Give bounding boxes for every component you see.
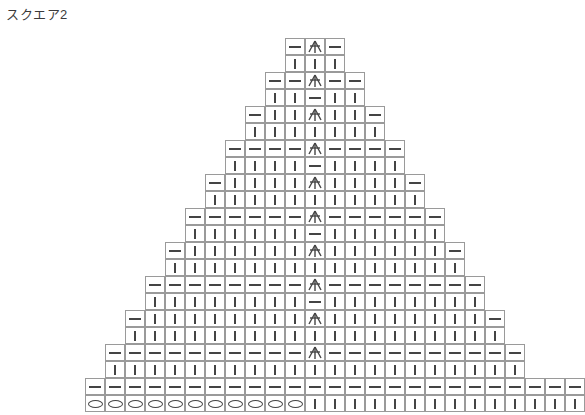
stitch-cell-half-double-crochet-dash — [245, 344, 265, 361]
stitch-cell-single-crochet-bar — [245, 327, 265, 344]
stitch-cell-single-crochet-bar — [465, 361, 485, 378]
stitch-cell-single-crochet-bar — [245, 259, 265, 276]
stitch-cell-single-crochet-bar — [345, 123, 365, 140]
stitch-cell-single-crochet-bar — [425, 361, 445, 378]
stitch-cell-half-double-crochet-dash — [145, 276, 165, 293]
stitch-cell-single-crochet-bar — [345, 293, 365, 310]
stitch-cell-single-crochet-bar — [245, 242, 265, 259]
stitch-cell-single-crochet-bar — [385, 395, 405, 412]
stitch-cell-single-crochet-bar — [385, 361, 405, 378]
stitch-cell-single-crochet-bar — [265, 310, 285, 327]
stitch-cell-single-crochet-bar — [325, 89, 345, 106]
stitch-cell-single-crochet-bar — [165, 361, 185, 378]
stitch-cell-half-double-crochet-dash — [245, 140, 265, 157]
stitch-cell-single-crochet-bar — [385, 174, 405, 191]
stitch-cell-half-double-crochet-dash — [365, 208, 385, 225]
stitch-cell-single-crochet-bar — [385, 242, 405, 259]
stitch-cell-single-crochet-bar — [365, 361, 385, 378]
stitch-cell-single-crochet-bar — [165, 327, 185, 344]
stitch-cell-half-double-crochet-dash — [285, 378, 305, 395]
stitch-cell-single-crochet-bar — [285, 106, 305, 123]
stitch-cell-single-crochet-bar — [365, 293, 385, 310]
stitch-cell-half-double-crochet-dash — [205, 208, 225, 225]
stitch-cell-half-double-crochet-dash — [165, 344, 185, 361]
stitch-cell-single-crochet-bar — [365, 174, 385, 191]
stitch-cell-single-crochet-bar — [525, 395, 545, 412]
stitch-cell-single-crochet-bar — [325, 55, 345, 72]
stitch-cell-half-double-crochet-dash — [405, 276, 425, 293]
stitch-cell-single-crochet-bar — [225, 174, 245, 191]
stitch-cell-half-double-crochet-dash — [85, 378, 105, 395]
stitch-cell-single-crochet-bar — [305, 361, 325, 378]
stitch-cell-half-double-crochet-dash — [365, 378, 385, 395]
stitch-cell-single-crochet-bar — [225, 157, 245, 174]
stitch-cell-chain-stitch-oval — [105, 395, 125, 412]
stitch-cell-half-double-crochet-dash — [205, 276, 225, 293]
stitch-cell-single-crochet-bar — [405, 259, 425, 276]
stitch-cell-single-crochet-bar — [245, 225, 265, 242]
stitch-cell-half-double-crochet-dash — [385, 140, 405, 157]
stitch-cell-half-double-crochet-dash — [145, 378, 165, 395]
stitch-cell-single-crochet-bar — [445, 361, 465, 378]
stitch-cell-center-double-decrease — [305, 106, 325, 123]
stitch-cell-single-crochet-bar — [265, 191, 285, 208]
stitch-cell-single-crochet-bar — [285, 293, 305, 310]
stitch-cell-half-double-crochet-dash — [345, 140, 365, 157]
stitch-cell-single-crochet-bar — [345, 310, 365, 327]
stitch-cell-half-double-crochet-dash — [305, 225, 325, 242]
stitch-cell-center-double-decrease — [305, 276, 325, 293]
stitch-cell-single-crochet-bar — [205, 242, 225, 259]
stitch-cell-half-double-crochet-dash — [345, 72, 365, 89]
stitch-cell-half-double-crochet-dash — [505, 378, 525, 395]
stitch-cell-single-crochet-bar — [185, 310, 205, 327]
stitch-cell-single-crochet-bar — [405, 327, 425, 344]
stitch-cell-single-crochet-bar — [225, 361, 245, 378]
stitch-cell-single-crochet-bar — [325, 361, 345, 378]
stitch-cell-half-double-crochet-dash — [205, 344, 225, 361]
stitch-cell-single-crochet-bar — [265, 242, 285, 259]
stitch-cell-single-crochet-bar — [505, 395, 525, 412]
stitch-cell-single-crochet-bar — [305, 327, 325, 344]
stitch-cell-half-double-crochet-dash — [285, 72, 305, 89]
stitch-cell-single-crochet-bar — [365, 123, 385, 140]
stitch-cell-single-crochet-bar — [265, 259, 285, 276]
stitch-cell-single-crochet-bar — [305, 55, 325, 72]
stitch-cell-single-crochet-bar — [425, 293, 445, 310]
stitch-cell-single-crochet-bar — [245, 361, 265, 378]
stitch-cell-single-crochet-bar — [145, 293, 165, 310]
stitch-cell-single-crochet-bar — [265, 361, 285, 378]
stitch-cell-single-crochet-bar — [505, 361, 525, 378]
stitch-cell-half-double-crochet-dash — [245, 378, 265, 395]
stitch-cell-half-double-crochet-dash — [425, 378, 445, 395]
stitch-cell-half-double-crochet-dash — [285, 344, 305, 361]
stitch-cell-single-crochet-bar — [385, 327, 405, 344]
stitch-cell-half-double-crochet-dash — [405, 174, 425, 191]
stitch-cell-half-double-crochet-dash — [325, 276, 345, 293]
stitch-cell-single-crochet-bar — [465, 293, 485, 310]
stitch-cell-half-double-crochet-dash — [345, 208, 365, 225]
stitch-cell-half-double-crochet-dash — [465, 344, 485, 361]
stitch-cell-single-crochet-bar — [205, 259, 225, 276]
stitch-cell-half-double-crochet-dash — [325, 140, 345, 157]
stitch-cell-half-double-crochet-dash — [445, 242, 465, 259]
stitch-cell-single-crochet-bar — [205, 310, 225, 327]
stitch-cell-single-crochet-bar — [405, 293, 425, 310]
stitch-cell-single-crochet-bar — [225, 242, 245, 259]
stitch-cell-single-crochet-bar — [285, 242, 305, 259]
stitch-cell-half-double-crochet-dash — [245, 276, 265, 293]
stitch-cell-single-crochet-bar — [185, 225, 205, 242]
stitch-cell-half-double-crochet-dash — [425, 276, 445, 293]
stitch-cell-half-double-crochet-dash — [265, 276, 285, 293]
stitch-cell-half-double-crochet-dash — [285, 140, 305, 157]
stitch-cell-half-double-crochet-dash — [465, 276, 485, 293]
stitch-cell-single-crochet-bar — [325, 191, 345, 208]
stitch-cell-half-double-crochet-dash — [365, 106, 385, 123]
stitch-cell-single-crochet-bar — [365, 310, 385, 327]
stitch-cell-single-crochet-bar — [265, 293, 285, 310]
stitch-cell-single-crochet-bar — [225, 259, 245, 276]
stitch-cell-half-double-crochet-dash — [425, 208, 445, 225]
stitch-cell-half-double-crochet-dash — [405, 208, 425, 225]
stitch-cell-single-crochet-bar — [225, 191, 245, 208]
stitch-cell-half-double-crochet-dash — [445, 276, 465, 293]
